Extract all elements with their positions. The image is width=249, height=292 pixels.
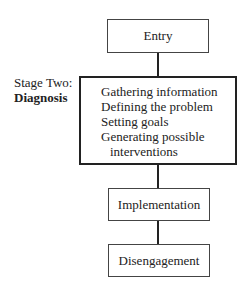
diagnosis-item-text: Generating possible [101,129,205,144]
diagnosis-box: Gathering information Defining the probl… [79,76,237,165]
disengagement-label: Disengagement [119,253,200,269]
stage-number: Stage Two: [14,75,72,90]
connector-entry-diagnosis [157,53,159,76]
diagnosis-activity-list: Gathering information Defining the probl… [101,84,218,159]
stage-name: Diagnosis [14,90,72,105]
implementation-box: Implementation [108,188,210,221]
disengagement-box: Disengagement [108,244,210,277]
diagnosis-item: Setting goals [101,114,218,129]
connector-diagnosis-implementation [157,165,159,188]
stage-label: Stage Two: Diagnosis [14,75,72,105]
diagnosis-item-continuation: interventions [101,144,218,159]
diagnosis-item: Generating possible interventions [101,129,218,159]
diagnosis-item: Gathering information [101,84,218,99]
implementation-label: Implementation [118,197,200,213]
connector-implementation-disengagement [157,221,159,244]
entry-box: Entry [107,19,209,53]
diagnosis-item: Defining the problem [101,99,218,114]
entry-label: Entry [144,28,173,44]
